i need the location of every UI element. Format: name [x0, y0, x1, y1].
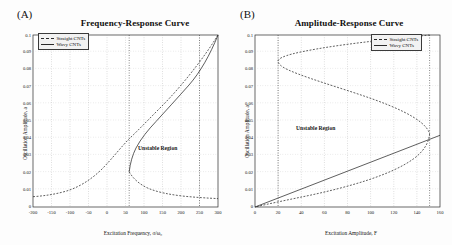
legend-swatch-solid-icon: [41, 44, 54, 45]
svg-text:0.01: 0.01: [23, 187, 32, 192]
svg-text:120: 120: [390, 210, 398, 215]
svg-text:-50: -50: [85, 210, 92, 215]
legend-swatch-dashed-icon: [374, 39, 387, 40]
legend-swatch-dashed-icon: [41, 38, 54, 39]
svg-text:0: 0: [29, 204, 32, 209]
svg-text:0.07: 0.07: [23, 84, 32, 89]
svg-text:200: 200: [178, 210, 186, 215]
xaxis-label-a: Excitation Frequency, σ/ω₀: [0, 230, 246, 236]
svg-text:-150: -150: [47, 210, 56, 215]
figure-container: (A) Frequency-Response Curve: [0, 0, 452, 245]
legend-swatch-solid-icon: [374, 45, 387, 46]
svg-text:0.02: 0.02: [245, 170, 254, 175]
legend-label-wavy-b: Wavy CNTs: [390, 43, 414, 49]
svg-text:0: 0: [251, 204, 254, 209]
svg-text:0.06: 0.06: [23, 101, 32, 106]
svg-text:20: 20: [276, 210, 281, 215]
svg-text:0.08: 0.08: [245, 66, 254, 71]
xticks-a: -200 -150 -100 -50 0 50 100 150 200 250 …: [29, 210, 222, 215]
yaxis-label-b: Oscillation Amplitude, a: [244, 105, 250, 158]
svg-text:80: 80: [345, 210, 350, 215]
svg-text:0.08: 0.08: [23, 66, 32, 71]
svg-text:0: 0: [106, 210, 109, 215]
plot-area-a: -200 -150 -100 -50 0 50 100 150 200 250 …: [0, 0, 226, 245]
svg-text:0: 0: [254, 210, 257, 215]
svg-text:40: 40: [299, 210, 304, 215]
panel-frequency-response: (A) Frequency-Response Curve: [0, 0, 226, 245]
legend-b: Straight CNTs Wavy CNTs: [371, 34, 422, 51]
panel-amplitude-response: (B) Amplitude-Response Curve: [226, 0, 452, 245]
svg-text:0.09: 0.09: [245, 49, 254, 54]
svg-text:50: 50: [123, 210, 128, 215]
svg-text:300: 300: [215, 210, 223, 215]
svg-text:0.07: 0.07: [245, 84, 254, 89]
svg-text:0.1: 0.1: [25, 33, 31, 38]
xaxis-label-b: Excitation Amplitude, F: [226, 230, 452, 236]
legend-label-wavy-a: Wavy CNTs: [57, 42, 81, 48]
svg-text:0.1: 0.1: [247, 33, 253, 38]
svg-text:100: 100: [367, 210, 375, 215]
svg-text:-100: -100: [66, 210, 75, 215]
svg-text:150: 150: [159, 210, 167, 215]
xticks-b: 0 20 40 60 80 100 120 140 160: [254, 210, 444, 215]
svg-text:0.02: 0.02: [23, 170, 32, 175]
svg-text:140: 140: [413, 210, 421, 215]
svg-text:250: 250: [196, 210, 204, 215]
svg-text:0.09: 0.09: [23, 49, 32, 54]
svg-text:160: 160: [437, 210, 445, 215]
unstable-region-label-b: Unstable Region: [296, 125, 335, 131]
yaxis-label-a: Oscillation Amplitude, a: [22, 107, 28, 160]
svg-text:0.01: 0.01: [245, 187, 254, 192]
svg-text:-200: -200: [29, 210, 38, 215]
legend-item-wavy-b: Wavy CNTs: [374, 43, 418, 49]
legend-a: Straight CNTs Wavy CNTs: [38, 33, 89, 50]
svg-text:100: 100: [141, 210, 149, 215]
svg-text:60: 60: [322, 210, 327, 215]
unstable-region-label-a: Unstable Region: [138, 145, 177, 151]
legend-item-wavy-a: Wavy CNTs: [41, 42, 85, 48]
